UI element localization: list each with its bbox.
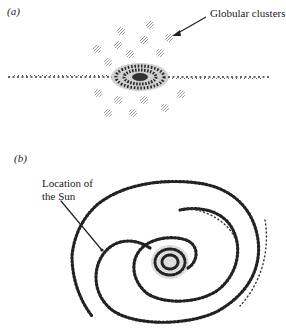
face-on-spiral-galaxy	[61, 181, 266, 322]
galactic-nucleus	[151, 245, 189, 279]
galactic-bulge	[111, 63, 169, 91]
globular-clusters-arrow	[172, 17, 206, 36]
galaxy-diagram	[0, 0, 286, 333]
sun-location-pointer	[61, 201, 104, 252]
edge-on-galaxy	[8, 17, 270, 117]
